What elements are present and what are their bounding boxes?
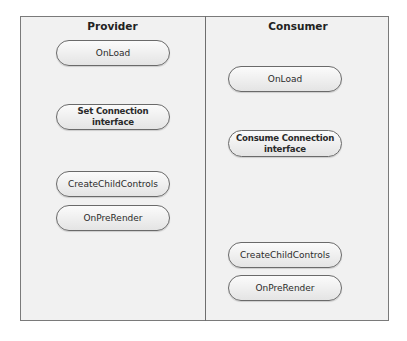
consumer-onprerender-step: OnPreRender [228, 275, 342, 301]
provider-onprerender-step: OnPreRender [56, 205, 170, 231]
provider-set-connection-step: Set Connection interface [56, 104, 170, 130]
consumer-createchildcontrols-step: CreateChildControls [228, 242, 342, 268]
column-divider [205, 16, 206, 321]
provider-createchildcontrols-step: CreateChildControls [56, 171, 170, 197]
consumer-consume-connection-step: Consume Connection interface [228, 130, 342, 157]
provider-column-title: Provider [20, 20, 205, 32]
provider-onload-step: OnLoad [56, 40, 170, 66]
consumer-onload-step: OnLoad [228, 66, 342, 92]
consumer-column-title: Consumer [206, 20, 390, 32]
